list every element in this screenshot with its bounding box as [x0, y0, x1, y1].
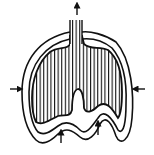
lung-diagram: [0, 0, 154, 155]
trachea: [70, 20, 82, 46]
lungs: [32, 36, 122, 123]
